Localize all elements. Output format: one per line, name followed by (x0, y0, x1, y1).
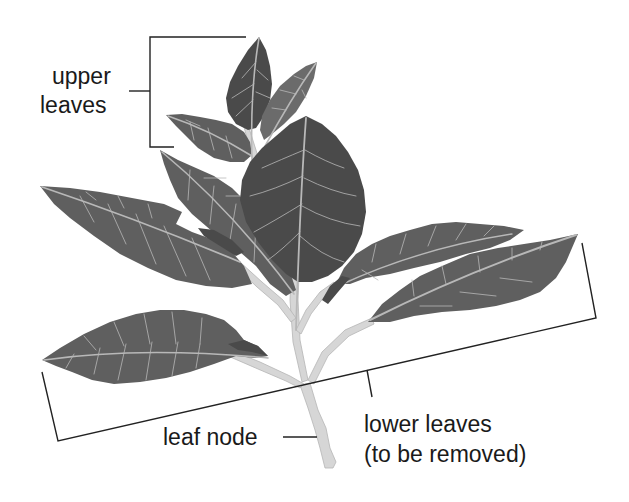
lower-leaves-label-line2: (to be removed) (364, 442, 526, 467)
leaves (40, 37, 578, 384)
upper-leaves-label-line1: upper (52, 64, 111, 89)
right-lower-branch (308, 318, 374, 384)
upper-leaves-label-line2: leaves (40, 93, 106, 118)
lower-left-leaf (42, 310, 268, 384)
center-large-leaf (240, 116, 366, 330)
lower-leaves-label-line1: lower leaves (364, 412, 492, 437)
leaf-node-label: leaf node (163, 425, 258, 450)
main-stem (300, 383, 336, 468)
lower-leaves-leader-line (367, 370, 372, 397)
